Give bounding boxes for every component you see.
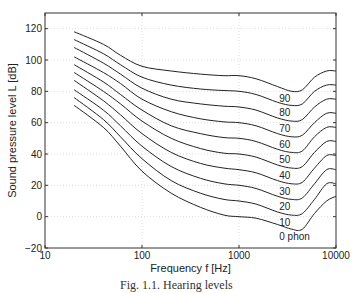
figure-caption: Fig. 1.1. Hearing levels (120, 278, 233, 293)
axis-ticks: −2002040608010012010100100010000 (25, 13, 350, 261)
x-tick-label: 10000 (322, 250, 350, 261)
x-tick-label: 1000 (228, 250, 251, 261)
curve-label-40: 40 (279, 170, 291, 181)
curve-label-60: 60 (279, 139, 291, 150)
curve-20-phon (74, 90, 336, 200)
curve-label-20: 20 (279, 201, 291, 212)
grid (45, 13, 336, 248)
curves (74, 32, 336, 231)
x-tick-label: 100 (134, 250, 151, 261)
plot-frame (45, 13, 336, 248)
y-tick-label: 120 (25, 23, 42, 34)
curve-10-phon (74, 98, 336, 216)
curve-label-50: 50 (279, 154, 291, 165)
y-tick-label: 100 (25, 55, 42, 66)
y-axis-label: Sound pressure level L [dB] (6, 63, 18, 198)
curve-70-phon (74, 48, 336, 122)
x-tick-label: 10 (39, 250, 51, 261)
curve-label-80: 80 (279, 107, 291, 118)
curve-label-70: 70 (279, 123, 291, 134)
curve-label-0: 0 phon (279, 231, 310, 242)
y-tick-label: 0 (36, 211, 42, 222)
curve-label-90: 90 (279, 93, 291, 104)
curve-label-30: 30 (279, 186, 291, 197)
x-axis-label: Frequency f [Hz] (150, 262, 231, 274)
curve-90-phon (74, 32, 336, 92)
y-tick-label: 60 (31, 117, 43, 128)
y-tick-label: 80 (31, 86, 43, 97)
curve-labels: 9080706050403020100 phon (279, 93, 310, 242)
y-tick-label: 40 (31, 149, 43, 160)
y-tick-label: 20 (31, 180, 43, 191)
curve-40-phon (74, 73, 336, 169)
curve-label-10: 10 (279, 217, 291, 228)
curve-80-phon (74, 40, 336, 106)
